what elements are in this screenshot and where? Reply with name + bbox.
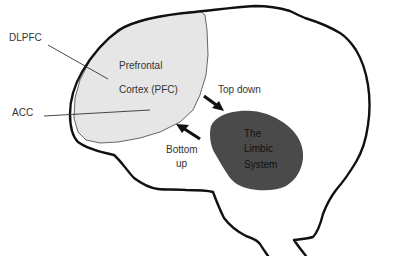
top-down-label: Top down	[218, 84, 261, 96]
pfc-label-line1: Prefrontal	[119, 60, 162, 72]
bottom-up-label-line2: up	[176, 158, 187, 170]
limbic-label-line1: The	[244, 128, 261, 140]
bottom-up-arrow-icon	[176, 124, 200, 139]
brain-diagram	[0, 0, 393, 256]
dlpfc-label: DLPFC	[9, 32, 42, 44]
pfc-label-line2: Cortex (PFC)	[119, 84, 178, 96]
limbic-label-line3: System	[244, 159, 277, 171]
bottom-up-label-line1: Bottom	[166, 144, 198, 156]
prefrontal-cortex-region	[74, 11, 208, 143]
top-down-arrow-icon	[204, 96, 224, 111]
limbic-label-line2: Limbic	[244, 143, 273, 155]
acc-label: ACC	[12, 107, 33, 119]
